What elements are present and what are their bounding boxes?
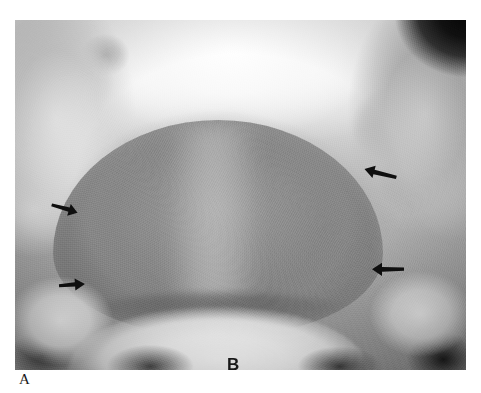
inner-panel-label-b: B: [227, 356, 239, 370]
pelvic-radiograph-image: B: [15, 20, 466, 370]
arrow-right-upper-marker: [363, 162, 399, 184]
panel-label-a: A: [19, 372, 30, 387]
figure-root: B A: [0, 0, 481, 393]
